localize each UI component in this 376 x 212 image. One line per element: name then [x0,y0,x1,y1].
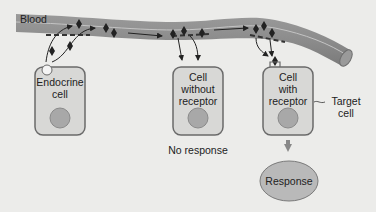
response-arrow [284,140,292,152]
response-label: Response [262,175,316,187]
blood-label: Blood [20,13,47,25]
cell-with-receptor-label: Cell with receptor [263,71,313,107]
no-response-label: No response [163,144,233,156]
cell-without-receptor-label: Cell without receptor [173,71,223,107]
target-cell-pointer [314,101,325,102]
endocrine-signaling-diagram: Blood Endocrine cell Cell without recept… [0,0,376,212]
blood-vessel [16,14,355,68]
target-cell-label: Target cell [326,95,366,119]
endocrine-cell-label: Endocrine cell [35,76,85,100]
